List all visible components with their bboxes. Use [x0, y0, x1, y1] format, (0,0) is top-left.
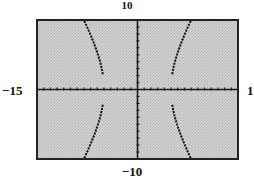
xmin-label: −15	[2, 84, 22, 97]
ymin-label: −10	[122, 165, 142, 178]
xmax-label: 1	[247, 84, 254, 97]
calculator-graph-screen	[0, 0, 254, 179]
ymax-label: 10	[122, 0, 133, 11]
